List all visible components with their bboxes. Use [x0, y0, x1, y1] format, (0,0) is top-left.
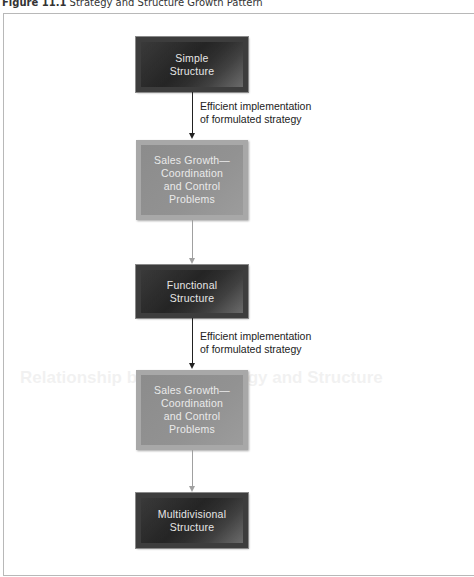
edge-label: Efficient implementation of formulated s… — [200, 330, 311, 356]
arrow-down-icon — [189, 258, 195, 264]
arrow-down-icon — [189, 133, 195, 139]
figure-caption: Figure 11.1 Strategy and Structure Growt… — [2, 0, 263, 8]
node-label: Problems — [169, 423, 215, 435]
figure-title: Strategy and Structure Growth Pattern — [70, 0, 263, 8]
node-label: Coordination — [161, 167, 223, 179]
arrow-down-icon — [189, 363, 195, 369]
node-label: Sales Growth— — [154, 154, 230, 166]
node-label: Structure — [170, 521, 214, 533]
node-label: Problems — [169, 193, 215, 205]
node-label: and Control — [164, 410, 220, 422]
node-sales-growth-1: Sales Growth— Coordination and Control P… — [136, 140, 248, 220]
node-multidivisional-structure: Multidivisional Structure — [136, 493, 248, 548]
node-label: and Control — [164, 180, 220, 192]
edge-line — [192, 318, 193, 363]
node-label: Structure — [170, 65, 214, 77]
node-functional-structure: Functional Structure — [136, 265, 248, 318]
node-label: Multidivisional — [158, 508, 226, 520]
node-label: Structure — [170, 292, 214, 304]
node-sales-growth-2: Sales Growth— Coordination and Control P… — [136, 370, 248, 450]
node-label: Sales Growth— — [154, 384, 230, 396]
arrow-down-icon — [189, 486, 195, 492]
node-label: Simple — [175, 52, 208, 64]
edge-label: Efficient implementation of formulated s… — [200, 100, 311, 126]
edge-line — [192, 92, 193, 133]
figure-number: Figure 11.1 — [2, 0, 66, 8]
edge-line — [192, 450, 193, 486]
node-simple-structure: Simple Structure — [136, 37, 248, 92]
node-label: Functional — [167, 279, 217, 291]
edge-line — [192, 220, 193, 258]
node-label: Coordination — [161, 397, 223, 409]
